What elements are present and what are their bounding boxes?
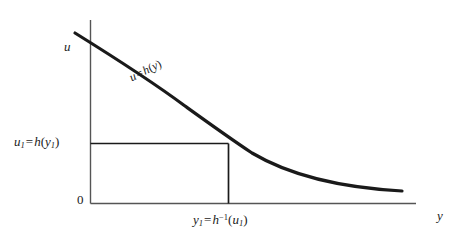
u-axis-label: u [64, 40, 71, 53]
u1-value-label: u1=h(y1) [14, 135, 59, 150]
y-axis-label: y [437, 209, 443, 222]
y1-exponent: −1 [219, 212, 228, 222]
y1-value-label: y1=h−1(u1) [193, 213, 248, 228]
origin-label: 0 [77, 193, 84, 206]
diagram-canvas [0, 0, 460, 247]
u1-equals: = [25, 134, 34, 149]
function-inverse-diagram: u y 0 u1=h(y1) y1=h−1(u1) u=h(y) [0, 0, 460, 247]
function-curve [75, 33, 402, 191]
y1-close-paren: ) [243, 212, 247, 227]
u1-close-paren: ) [55, 134, 59, 149]
